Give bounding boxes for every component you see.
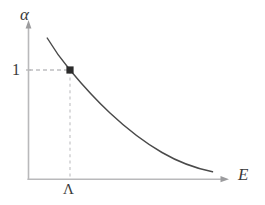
plot-canvas [0, 0, 265, 205]
marker-point [66, 66, 73, 73]
y-axis-label: α [20, 6, 29, 23]
x-tick-label-lambda: Λ [63, 182, 74, 197]
curve-alpha-of-E [47, 38, 212, 172]
chart-figure: α E 1 Λ [0, 0, 265, 205]
arrow-right-icon [221, 176, 230, 182]
y-tick-label-1: 1 [12, 62, 20, 78]
x-axis-label: E [238, 166, 248, 183]
